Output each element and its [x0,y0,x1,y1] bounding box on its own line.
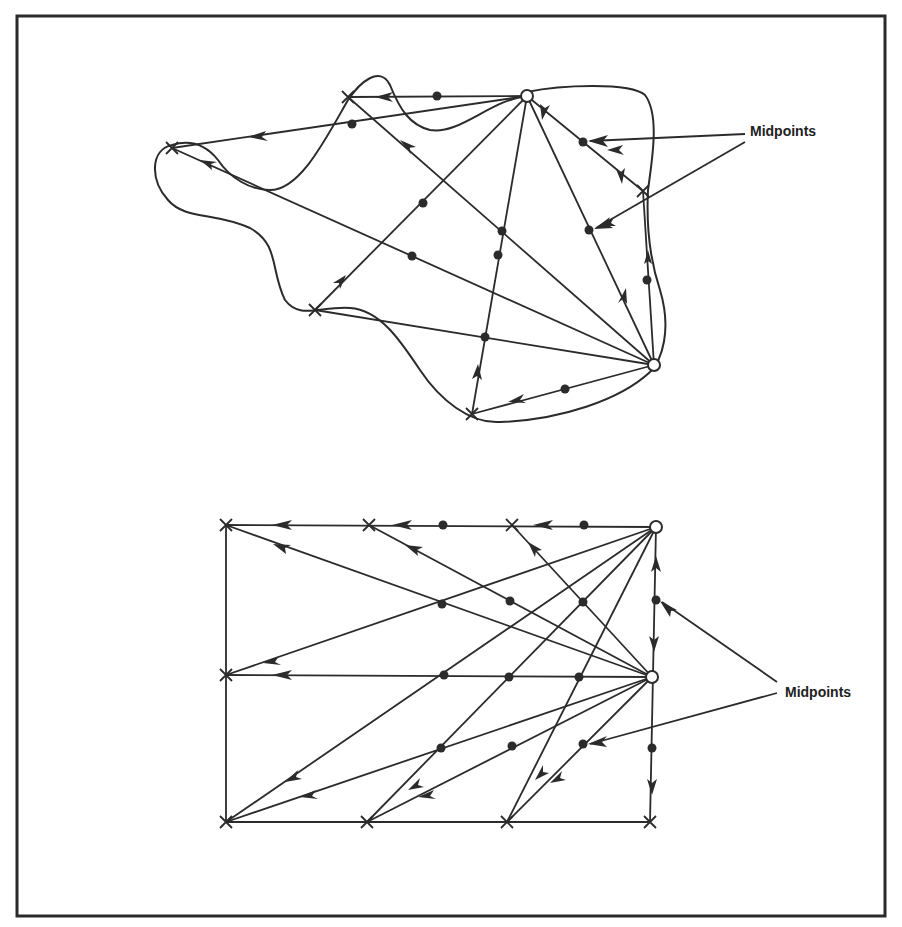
top-irregular-region-diagram: Midpoints [155,76,816,422]
top-node-a [521,90,533,102]
bottom-node-c [650,521,662,533]
bottom-node-d [646,671,658,683]
bottom-label-leader-1 [662,602,777,682]
top-node-b [648,359,660,371]
irregular-boundary-curve [155,76,665,422]
bottom-midpoints-label: Midpoints [785,684,851,700]
figure-border [17,16,885,916]
top-label-leader-2 [596,142,745,228]
top-cross-points [166,91,649,420]
bottom-rectangular-grid-diagram: Midpoints [220,519,851,828]
top-label-leader-1 [590,134,745,141]
top-midpoints-label: Midpoints [750,123,816,139]
midpoints-diagram-figure: Midpoints [0,0,902,927]
bottom-label-leader-2 [590,693,777,744]
